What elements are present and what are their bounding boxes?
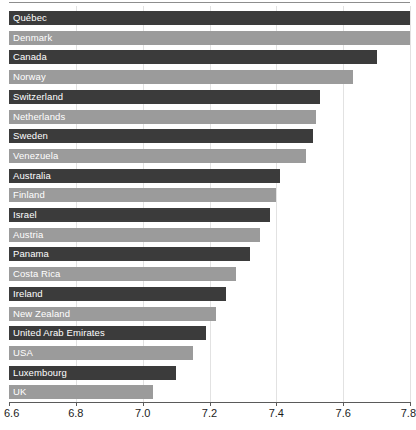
bar-row: Ireland bbox=[9, 287, 410, 301]
bar bbox=[9, 346, 193, 360]
bar bbox=[9, 188, 276, 202]
bar-category-label: Venezuela bbox=[13, 149, 58, 163]
x-tick bbox=[343, 402, 344, 406]
bar-row: Canada bbox=[9, 50, 410, 64]
bar bbox=[9, 70, 353, 84]
bar-row: Netherlands bbox=[9, 110, 410, 124]
bar-row: Panama bbox=[9, 247, 410, 261]
bar-row: Finland bbox=[9, 188, 410, 202]
bar-row: United Arab Emirates bbox=[9, 326, 410, 340]
bar-category-label: Panama bbox=[13, 247, 49, 261]
bar bbox=[9, 31, 410, 45]
x-tick-label: 7.2 bbox=[202, 407, 217, 419]
bar-row: Israel bbox=[9, 208, 410, 222]
bar-category-label: Austria bbox=[13, 228, 43, 242]
bar-category-label: United Arab Emirates bbox=[13, 326, 105, 340]
x-tick bbox=[276, 402, 277, 406]
x-tick-label: 6.8 bbox=[68, 407, 83, 419]
bar-row: Australia bbox=[9, 169, 410, 183]
x-tick-label: 7.4 bbox=[269, 407, 284, 419]
bar-row: Québec bbox=[9, 11, 410, 25]
bar-category-label: Australia bbox=[13, 169, 51, 183]
bar-row: Sweden bbox=[9, 129, 410, 143]
plot-area: QuébecDenmarkCanadaNorwaySwitzerlandNeth… bbox=[0, 6, 416, 402]
x-tick-label: 6.6 bbox=[4, 407, 19, 419]
bar-row: Austria bbox=[9, 228, 410, 242]
bar bbox=[9, 129, 313, 143]
plot-top-rule bbox=[9, 2, 410, 3]
bar-row: USA bbox=[9, 346, 410, 360]
x-tick-label: 7.0 bbox=[135, 407, 150, 419]
bar-category-label: New Zealand bbox=[13, 307, 70, 321]
bar-category-label: Israel bbox=[13, 208, 37, 222]
x-tick bbox=[9, 402, 10, 406]
bar-row: Denmark bbox=[9, 31, 410, 45]
x-tick bbox=[210, 402, 211, 406]
bar bbox=[9, 385, 153, 399]
bar-row: UK bbox=[9, 385, 410, 399]
x-tick-label: 7.6 bbox=[336, 407, 351, 419]
bar-row: Switzerland bbox=[9, 90, 410, 104]
x-tick bbox=[76, 402, 77, 406]
bar-category-label: Costa Rica bbox=[13, 267, 60, 281]
bar-category-label: Canada bbox=[13, 50, 47, 64]
bar-row: Luxembourg bbox=[9, 366, 410, 380]
x-tick bbox=[410, 402, 411, 406]
bar-category-label: Norway bbox=[13, 70, 46, 84]
bar-category-label: UK bbox=[13, 385, 26, 399]
bar bbox=[9, 11, 410, 25]
bar bbox=[9, 228, 260, 242]
bar-category-label: Finland bbox=[13, 188, 45, 202]
bar-row: Norway bbox=[9, 70, 410, 84]
x-axis: 6.66.87.07.27.47.67.8 bbox=[0, 402, 416, 430]
bar-category-label: USA bbox=[13, 346, 33, 360]
bar-category-label: Denmark bbox=[13, 31, 52, 45]
bar bbox=[9, 50, 377, 64]
bar-category-label: Québec bbox=[13, 11, 47, 25]
bar-row: New Zealand bbox=[9, 307, 410, 321]
x-tick bbox=[143, 402, 144, 406]
bar-category-label: Luxembourg bbox=[13, 366, 67, 380]
bar-row: Venezuela bbox=[9, 149, 410, 163]
bar-category-label: Netherlands bbox=[13, 110, 65, 124]
bar-chart: QuébecDenmarkCanadaNorwaySwitzerlandNeth… bbox=[0, 0, 416, 430]
bar-category-label: Sweden bbox=[13, 129, 48, 143]
bar-row: Costa Rica bbox=[9, 267, 410, 281]
bar-series: QuébecDenmarkCanadaNorwaySwitzerlandNeth… bbox=[0, 6, 416, 402]
x-tick-label: 7.8 bbox=[401, 407, 416, 419]
bar bbox=[9, 208, 270, 222]
bar-category-label: Ireland bbox=[13, 287, 43, 301]
bar-category-label: Switzerland bbox=[13, 90, 63, 104]
